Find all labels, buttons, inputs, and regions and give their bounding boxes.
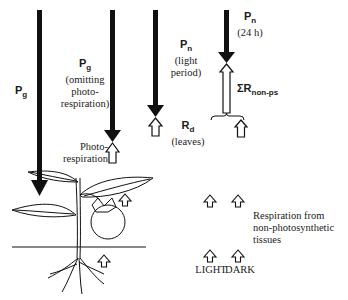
sum-r-label: ΣRnon-ps xyxy=(237,82,278,99)
pg-label: Pg xyxy=(15,84,27,101)
root-respiration-up-arrow xyxy=(98,255,110,267)
light-lower-up-arrow xyxy=(204,250,216,262)
plant-illustration xyxy=(12,171,153,294)
pg-omitting-label: Pg (omitting photo- respiration) xyxy=(55,57,115,110)
photorespiration-label: Photo- respiration xyxy=(60,141,108,165)
fruit-respiration-up-arrow xyxy=(119,194,131,206)
pg-down-arrow xyxy=(31,10,48,196)
pn-24h-label: Pn (24 h) xyxy=(232,10,268,39)
sum-bracket xyxy=(211,113,244,120)
respiration-legend-text: Respiration from non-photosynthetic tiss… xyxy=(253,210,334,246)
sum-r-up-arrow xyxy=(220,64,233,113)
light-upper-up-arrow xyxy=(204,195,216,207)
dark-upper-up-arrow xyxy=(232,195,244,207)
rd-up-arrow xyxy=(149,118,162,136)
dark-label: DARK xyxy=(224,264,256,276)
pn-light-label: Pn (light period) xyxy=(166,38,206,79)
dark-lower-up-arrow xyxy=(232,250,244,262)
rd-label: Rd (leaves) xyxy=(165,119,211,148)
pn-light-down-arrow xyxy=(147,10,164,117)
bracket-up-arrow xyxy=(235,120,247,137)
